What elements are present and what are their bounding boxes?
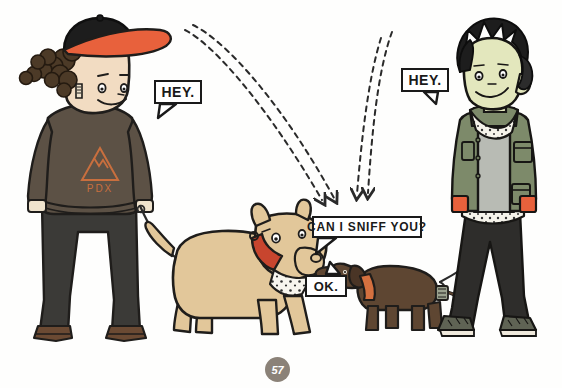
left-person-cap	[64, 15, 171, 56]
character-right-person	[438, 18, 536, 336]
speech-bubble-can-i-sniff-you: CAN I SNIFF YOU?	[312, 216, 422, 238]
dog-pit-bull	[145, 200, 326, 334]
comic-illustration: PDX	[0, 0, 562, 388]
speech-bubble-ok: OK.	[305, 275, 347, 297]
speech-bubble-hey-right: HEY.	[401, 68, 449, 92]
page-number-badge: 57	[265, 357, 290, 382]
gaze-arrow-right	[357, 32, 392, 194]
character-left-person: PDX	[20, 15, 171, 341]
svg-text:PDX: PDX	[87, 183, 114, 194]
gaze-arrow-left	[185, 25, 334, 200]
right-person-shoes	[438, 316, 536, 336]
left-person-shoes	[34, 326, 146, 341]
speech-bubble-hey-left: HEY.	[154, 80, 202, 104]
comic-page: PDX	[0, 0, 562, 388]
